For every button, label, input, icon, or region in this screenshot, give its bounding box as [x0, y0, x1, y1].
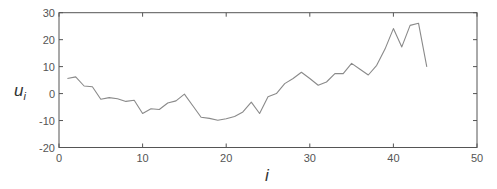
- y-tick-label: 30: [43, 7, 55, 19]
- x-axis-tick-labels: 01020304050: [56, 152, 483, 164]
- x-tick-label: 0: [56, 152, 62, 164]
- y-tick-label: 20: [43, 34, 55, 46]
- x-tick-label: 20: [220, 152, 232, 164]
- axis-ticks: [59, 13, 477, 148]
- x-tick-label: 10: [136, 152, 148, 164]
- x-tick-label: 50: [471, 152, 483, 164]
- line-chart: 01020304050 -20-100102030 i ui: [0, 0, 497, 189]
- y-axis-tick-labels: -20-100102030: [39, 7, 55, 154]
- y-tick-label: -20: [39, 142, 55, 154]
- data-series-line: [67, 23, 426, 120]
- y-tick-label: 0: [49, 88, 55, 100]
- plot-frame: [59, 13, 477, 148]
- y-axis-label-subscript: i: [23, 90, 26, 102]
- y-tick-label: 10: [43, 61, 55, 73]
- x-axis-label: i: [265, 166, 270, 185]
- x-tick-label: 30: [304, 152, 316, 164]
- y-tick-label: -10: [39, 115, 55, 127]
- y-axis-label: ui: [14, 81, 26, 102]
- x-tick-label: 40: [387, 152, 399, 164]
